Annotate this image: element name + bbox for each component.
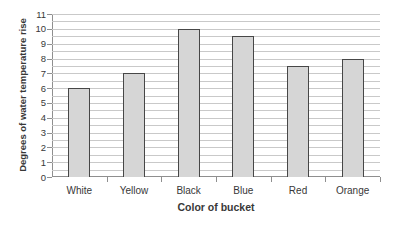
bar-red (287, 66, 309, 177)
y-tick-mark (47, 59, 52, 60)
gridline (52, 110, 380, 111)
y-tick-mark (47, 147, 52, 148)
bar-white (68, 88, 90, 177)
y-tick-label: 5 (14, 97, 46, 108)
gridline (52, 36, 380, 37)
gridline (52, 59, 380, 60)
x-tick-mark (380, 177, 381, 182)
y-tick-mark (47, 133, 52, 134)
gridline (52, 51, 380, 52)
y-tick-label: 6 (14, 83, 46, 94)
x-category-label: Yellow (107, 184, 162, 197)
gridline (52, 96, 380, 97)
gridline (52, 66, 380, 67)
gridline (52, 88, 380, 89)
x-tick-mark (271, 177, 272, 182)
gridline (52, 81, 380, 82)
y-tick-mark (47, 162, 52, 163)
y-tick-mark (47, 103, 52, 104)
x-tick-mark (216, 177, 217, 182)
gridline (52, 155, 380, 156)
y-tick-label: 0 (14, 172, 46, 183)
gridline (52, 162, 380, 163)
y-tick-mark (47, 118, 52, 119)
y-tick-label: 3 (14, 127, 46, 138)
gridline (52, 14, 380, 15)
bar-chart-figure: Degrees of water temperature rise Color … (0, 0, 393, 230)
gridline (52, 29, 380, 30)
gridline (52, 147, 380, 148)
y-tick-label: 2 (14, 142, 46, 153)
y-tick-mark (47, 44, 52, 45)
y-tick-label: 11 (14, 9, 46, 20)
gridline (52, 21, 380, 22)
gridline (52, 170, 380, 171)
y-tick-mark (47, 14, 52, 15)
bar-blue (232, 36, 254, 177)
y-tick-mark (47, 73, 52, 74)
x-category-label: Red (271, 184, 326, 197)
bar-yellow (123, 73, 145, 177)
x-tick-mark (107, 177, 108, 182)
gridline (52, 44, 380, 45)
y-tick-mark (47, 29, 52, 30)
y-tick-label: 7 (14, 68, 46, 79)
gridline (52, 118, 380, 119)
x-tick-mark (325, 177, 326, 182)
x-axis-title: Color of bucket (52, 201, 380, 213)
x-tick-mark (161, 177, 162, 182)
x-category-label: Black (161, 184, 216, 197)
y-tick-label: 9 (14, 38, 46, 49)
gridline (52, 140, 380, 141)
y-tick-label: 10 (14, 23, 46, 34)
y-tick-mark (47, 177, 52, 178)
y-tick-mark (47, 88, 52, 89)
y-tick-label: 1 (14, 157, 46, 168)
y-tick-label: 8 (14, 53, 46, 64)
gridline (52, 133, 380, 134)
x-category-label: White (52, 184, 107, 197)
x-category-label: Orange (325, 184, 380, 197)
plot-area (52, 14, 380, 177)
x-category-label: Blue (216, 184, 271, 197)
gridline (52, 103, 380, 104)
bar-black (178, 29, 200, 177)
y-tick-label: 4 (14, 112, 46, 123)
bar-orange (342, 59, 364, 178)
gridline (52, 73, 380, 74)
gridline (52, 125, 380, 126)
